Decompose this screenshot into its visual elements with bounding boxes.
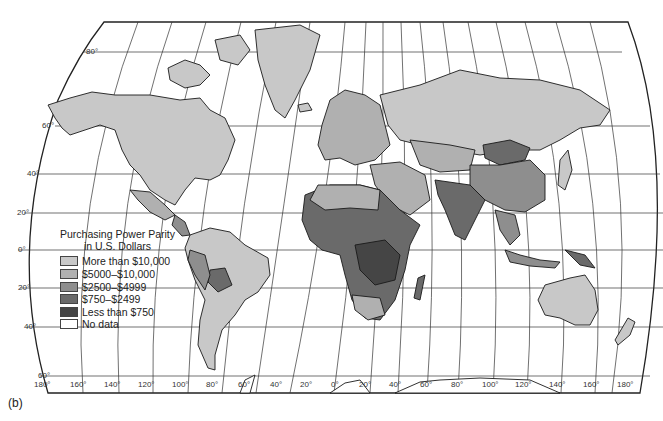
svg-text:80°: 80° xyxy=(451,380,463,389)
svg-text:180°: 180° xyxy=(617,380,634,389)
swatch-no-data xyxy=(60,319,78,329)
indonesia xyxy=(505,250,560,268)
svg-text:40°: 40° xyxy=(27,169,39,178)
europe xyxy=(318,90,390,165)
legend-item-2500-4999: $2500–$4999 xyxy=(60,280,175,293)
japan xyxy=(558,150,572,190)
swatch-2500-4999 xyxy=(60,282,78,292)
figure-label: (b) xyxy=(8,396,23,410)
iceland xyxy=(298,103,312,112)
svg-text:100°: 100° xyxy=(172,380,189,389)
svg-text:20°: 20° xyxy=(300,380,312,389)
svg-text:20°: 20° xyxy=(359,380,371,389)
swatch-less-than-750 xyxy=(60,307,78,317)
continents xyxy=(48,25,635,393)
svg-text:60°: 60° xyxy=(420,380,432,389)
southern-africa xyxy=(352,295,385,320)
world-map: 80° 60° 40° 20° 0° 20° 40° 60° 180° 160°… xyxy=(0,0,663,421)
svg-text:0°: 0° xyxy=(331,380,339,389)
svg-text:60°: 60° xyxy=(42,121,54,130)
svg-text:160°: 160° xyxy=(70,380,87,389)
svg-text:40°: 40° xyxy=(389,380,401,389)
swatch-5000-10000 xyxy=(60,269,78,279)
papua-new-guinea xyxy=(565,250,595,268)
svg-text:140°: 140° xyxy=(549,380,566,389)
svg-text:100°: 100° xyxy=(482,380,499,389)
legend: Purchasing Power Parity in U.S. Dollars … xyxy=(60,228,175,331)
svg-text:140°: 140° xyxy=(104,380,121,389)
legend-item-no-data: No data xyxy=(60,318,175,331)
new-zealand xyxy=(615,318,635,345)
svg-text:40°: 40° xyxy=(270,380,282,389)
svg-text:20°: 20° xyxy=(18,283,30,292)
svg-text:60°: 60° xyxy=(238,380,250,389)
greenland xyxy=(255,25,320,118)
svg-text:80°: 80° xyxy=(86,47,98,56)
madagascar xyxy=(414,275,425,300)
svg-text:120°: 120° xyxy=(515,380,532,389)
svg-text:120°: 120° xyxy=(138,380,155,389)
svg-text:160°: 160° xyxy=(583,380,600,389)
svg-text:80°: 80° xyxy=(206,380,218,389)
legend-item-750-2499: $750–$2499 xyxy=(60,293,175,306)
south-america xyxy=(185,228,270,370)
svg-text:60°: 60° xyxy=(38,371,50,380)
svg-text:180°: 180° xyxy=(34,380,51,389)
north-africa xyxy=(310,185,380,210)
southeast-asia xyxy=(495,210,520,245)
swatch-more-than-10000 xyxy=(60,256,78,266)
legend-item-5000-10000: $5000–$10,000 xyxy=(60,268,175,281)
arctic-islands xyxy=(168,35,250,88)
svg-text:0°: 0° xyxy=(18,245,26,254)
svg-text:20°: 20° xyxy=(17,208,29,217)
swatch-750-2499 xyxy=(60,294,78,304)
svg-text:40°: 40° xyxy=(24,322,36,331)
legend-item-more-than-10000: More than $10,000 xyxy=(60,255,175,268)
australia xyxy=(538,275,598,325)
legend-item-less-than-750: Less than $750 xyxy=(60,306,175,319)
legend-title: Purchasing Power Parity in U.S. Dollars xyxy=(60,228,175,252)
